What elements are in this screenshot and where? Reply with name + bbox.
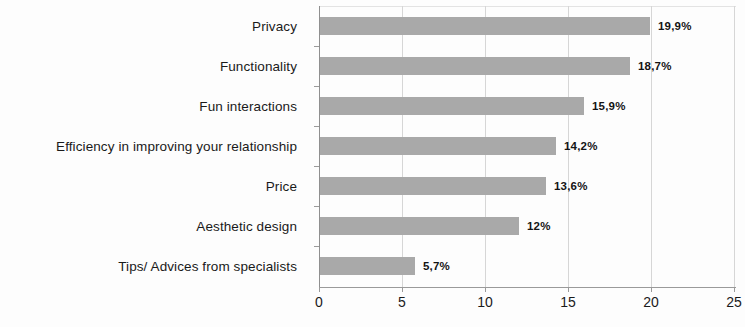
x-tick — [319, 287, 320, 292]
bar-row: 14,2% — [320, 126, 736, 166]
bar — [320, 17, 650, 35]
bar — [320, 257, 415, 275]
bar-row: 12% — [320, 206, 736, 246]
bar-value-label: 18,7% — [638, 57, 672, 75]
category-label: Functionality — [220, 59, 305, 74]
plot-area: 19,9% 18,7% 15,9% 14,2% 13,6% 12% 5,7% — [319, 6, 736, 287]
y-tick — [314, 86, 319, 87]
x-tick — [485, 287, 486, 292]
x-tick-label: 0 — [315, 294, 323, 310]
bar-value-label: 15,9% — [592, 97, 626, 115]
x-tick — [651, 287, 652, 292]
x-tick-label: 20 — [643, 294, 659, 310]
y-tick — [314, 46, 319, 47]
y-tick — [314, 206, 319, 207]
category-label: Efficiency in improving your relationshi… — [56, 139, 305, 154]
y-tick — [314, 126, 319, 127]
bar — [320, 137, 556, 155]
category-row: Fun interactions — [0, 86, 305, 126]
bar-row: 5,7% — [320, 246, 736, 286]
bar-value-label: 14,2% — [564, 137, 598, 155]
bar — [320, 217, 519, 235]
category-label: Price — [266, 179, 305, 194]
category-label: Tips/ Advices from specialists — [118, 259, 305, 274]
x-axis-line — [319, 287, 736, 288]
bar-value-label: 19,9% — [658, 17, 692, 35]
category-label: Fun interactions — [199, 99, 305, 114]
horizontal-bar-chart: Privacy Functionality Fun interactions E… — [0, 0, 745, 327]
bar-row: 15,9% — [320, 86, 736, 126]
bar-value-label: 12% — [527, 217, 551, 235]
x-tick-label: 10 — [477, 294, 493, 310]
x-tick-label: 25 — [726, 294, 742, 310]
x-axis-labels: 0 5 10 15 20 25 — [319, 294, 736, 318]
bar-row: 18,7% — [320, 46, 736, 86]
bar — [320, 177, 546, 195]
x-tick — [734, 287, 735, 292]
bar-row: 19,9% — [320, 6, 736, 46]
category-row: Efficiency in improving your relationshi… — [0, 126, 305, 166]
y-tick — [314, 246, 319, 247]
category-row: Functionality — [0, 46, 305, 86]
category-row: Aesthetic design — [0, 206, 305, 246]
bar — [320, 97, 584, 115]
bar-row: 13,6% — [320, 166, 736, 206]
x-tick — [402, 287, 403, 292]
y-tick — [314, 166, 319, 167]
x-tick — [568, 287, 569, 292]
category-row: Privacy — [0, 6, 305, 46]
bar-value-label: 5,7% — [423, 257, 450, 275]
x-tick-label: 15 — [560, 294, 576, 310]
category-label: Privacy — [252, 19, 305, 34]
category-row: Price — [0, 166, 305, 206]
category-label: Aesthetic design — [196, 219, 305, 234]
category-axis: Privacy Functionality Fun interactions E… — [0, 6, 312, 287]
bar — [320, 57, 630, 75]
x-tick-label: 5 — [398, 294, 406, 310]
category-row: Tips/ Advices from specialists — [0, 246, 305, 286]
bar-value-label: 13,6% — [554, 177, 588, 195]
